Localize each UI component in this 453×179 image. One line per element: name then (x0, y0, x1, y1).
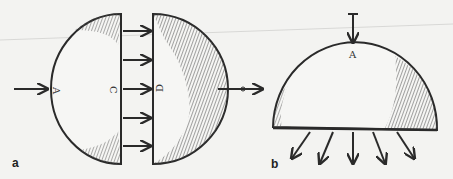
diagram-svg: A C D a A b (0, 0, 453, 179)
base-arrows (292, 132, 414, 163)
label-c: C (108, 86, 119, 94)
panel-label-a: a (12, 156, 19, 170)
label-d: D (154, 84, 165, 92)
figure-canvas: A C D a A b (0, 0, 453, 179)
panel-a: A C D a (12, 14, 262, 170)
label-a: A (51, 86, 62, 95)
scan-artifact (0, 24, 453, 40)
panel-label-b: b (271, 157, 278, 171)
panel-b: A b (271, 14, 437, 171)
label-apex-a: A (348, 49, 357, 60)
inter-face-arrows (123, 31, 150, 146)
